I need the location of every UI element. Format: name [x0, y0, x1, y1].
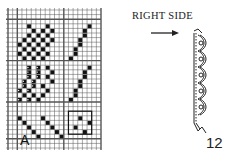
filled-cell — [32, 130, 36, 134]
filled-cell — [74, 89, 78, 93]
filled-cell — [46, 75, 50, 79]
filled-cell — [27, 126, 31, 130]
dot-mark — [37, 71, 38, 72]
dot-mark — [32, 85, 33, 86]
right-side-label: RIGHT SIDE — [132, 10, 193, 21]
filled-cell — [83, 130, 87, 134]
filled-cell — [32, 47, 36, 51]
filled-cell — [22, 93, 26, 97]
filled-cell — [78, 38, 82, 42]
dot-mark — [37, 76, 38, 77]
filled-cell — [46, 66, 50, 70]
filled-cell — [32, 29, 36, 33]
filled-cell — [78, 116, 82, 120]
dot-mark — [37, 67, 38, 68]
filled-cell — [50, 126, 54, 130]
filled-cell — [50, 80, 54, 84]
filled-cell — [46, 89, 50, 93]
filled-cell — [36, 34, 40, 38]
filled-cell — [88, 121, 92, 125]
filled-cell — [78, 80, 82, 84]
dot-mark — [32, 81, 33, 82]
filled-cell — [74, 93, 78, 97]
filled-cell — [27, 34, 31, 38]
filled-cell — [50, 29, 54, 33]
filled-cell — [36, 52, 40, 56]
filled-cell — [78, 43, 82, 47]
filled-cell — [41, 29, 45, 33]
filled-cell — [60, 135, 64, 139]
filled-cell — [88, 66, 92, 70]
braided-edge-illustration — [188, 27, 214, 137]
filled-cell — [22, 47, 26, 51]
filled-cell — [74, 47, 78, 51]
dot-mark — [18, 90, 19, 91]
filled-cell — [46, 43, 50, 47]
filled-cell — [36, 43, 40, 47]
filled-cell — [50, 38, 54, 42]
filled-cell — [36, 135, 40, 139]
dot-mark — [27, 67, 28, 68]
filled-cell — [27, 43, 31, 47]
filled-cell — [41, 38, 45, 42]
filled-cell — [83, 75, 87, 79]
dot-mark — [27, 71, 28, 72]
dot-mark — [18, 99, 19, 100]
filled-cell — [18, 52, 22, 56]
filled-cell — [46, 52, 50, 56]
filled-cell — [18, 116, 22, 120]
dot-mark — [23, 81, 24, 82]
filled-cell — [32, 38, 36, 42]
filled-cell — [55, 130, 59, 134]
filled-cell — [46, 121, 50, 125]
dot-mark — [27, 76, 28, 77]
filled-cell — [83, 29, 87, 33]
filled-cell — [27, 24, 31, 28]
filled-cell — [22, 121, 26, 125]
filled-cell — [83, 34, 87, 38]
filled-cell — [41, 93, 45, 97]
filled-cell — [41, 47, 45, 51]
filled-cell — [74, 52, 78, 56]
filled-cell — [78, 84, 82, 88]
dot-mark — [23, 85, 24, 86]
filled-cell — [88, 24, 92, 28]
dot-mark — [27, 99, 28, 100]
arrow-right-icon — [150, 28, 180, 38]
filled-cell — [46, 34, 50, 38]
filled-cell — [83, 70, 87, 74]
dot-mark — [27, 90, 28, 91]
figure-number: 12 — [206, 134, 223, 151]
filled-cell — [32, 93, 36, 97]
filled-cell — [41, 116, 45, 120]
filled-cell — [18, 43, 22, 47]
filled-cell — [41, 84, 45, 88]
filled-cell — [46, 24, 50, 28]
filled-cell — [74, 126, 78, 130]
filled-cell — [50, 70, 54, 74]
chart-corner-letter: A — [20, 132, 29, 148]
filled-cell — [27, 52, 31, 56]
filled-cell — [22, 38, 26, 42]
